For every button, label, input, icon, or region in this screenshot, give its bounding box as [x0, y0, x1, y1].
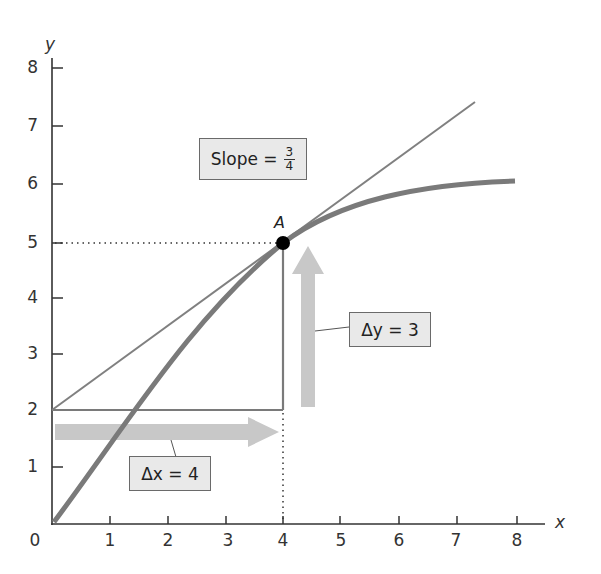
- delta-x-arrow: [55, 417, 279, 447]
- delta-y-arrow: [292, 246, 324, 407]
- x-tick-label: 8: [507, 530, 527, 550]
- x-tick-label: 6: [389, 530, 409, 550]
- x-axis-label: x: [555, 512, 565, 532]
- x-tick-label: 0: [25, 530, 45, 550]
- chart-canvas: [0, 0, 601, 574]
- point-a-label: A: [274, 213, 285, 232]
- x-ticks: [110, 516, 517, 524]
- y-tick-label: 8: [22, 57, 38, 77]
- y-tick-label: 5: [22, 232, 38, 252]
- slope-fraction: 3 4: [284, 146, 296, 173]
- point-a-marker: [276, 236, 290, 250]
- delta-y-leader: [315, 327, 349, 331]
- delta-x-annotation-box: Δx = 4: [129, 456, 211, 491]
- y-tick-label: 2: [22, 399, 38, 419]
- y-tick-label: 4: [22, 287, 38, 307]
- x-tick-label: 7: [446, 530, 466, 550]
- x-tick-label: 2: [158, 530, 178, 550]
- delta-y-annotation-box: Δy = 3: [349, 312, 431, 347]
- slope-text: Slope =: [211, 149, 278, 169]
- y-tick-label: 3: [22, 343, 38, 363]
- y-tick-label: 1: [22, 456, 38, 476]
- slope-numerator: 3: [284, 146, 296, 160]
- y-axis-label: y: [45, 34, 55, 54]
- y-tick-label: 7: [22, 115, 38, 135]
- curve: [54, 181, 515, 522]
- y-tick-label: 6: [22, 173, 38, 193]
- x-tick-label: 4: [273, 530, 293, 550]
- x-tick-label: 1: [100, 530, 120, 550]
- delta-x-leader: [171, 440, 176, 457]
- x-tick-label: 5: [331, 530, 351, 550]
- slope-annotation-box: Slope = 3 4: [199, 138, 307, 180]
- slope-denominator: 4: [286, 160, 294, 173]
- x-tick-label: 3: [218, 530, 238, 550]
